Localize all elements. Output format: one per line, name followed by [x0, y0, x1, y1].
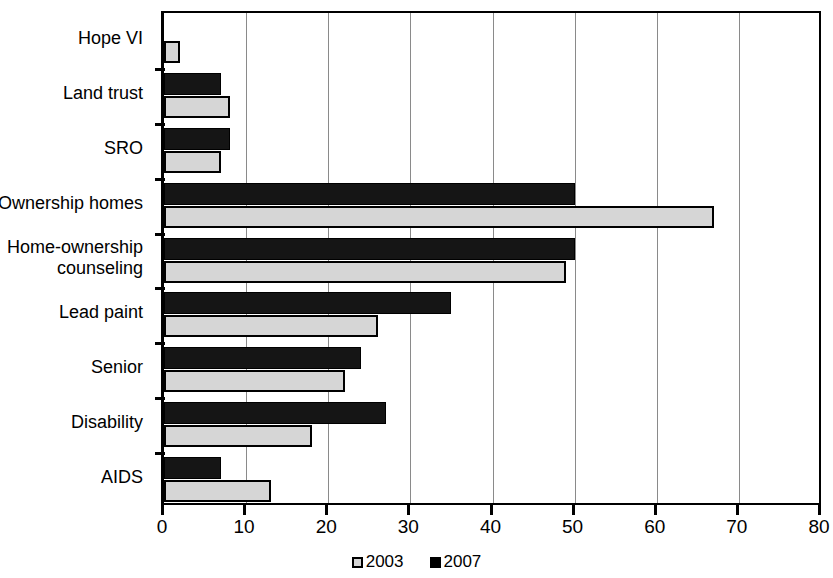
category-label-disability: Disability: [0, 412, 143, 433]
bar-2007-land-trust: [164, 73, 221, 95]
category-axis-labels: Hope VILand trustSROOwnership homesHome-…: [0, 11, 152, 505]
bar-2003-senior: [164, 370, 345, 392]
x-tick: [407, 505, 410, 515]
legend-label: 2007: [444, 552, 482, 572]
chart-legend: 20032007: [0, 551, 833, 572]
x-tick-label: 0: [140, 516, 184, 538]
category-tick: [155, 123, 165, 126]
bar-2003-lead-paint: [164, 315, 378, 337]
legend-label: 2003: [366, 552, 404, 572]
bar-2007-senior: [164, 347, 361, 369]
bar-2007-sro: [164, 128, 230, 150]
bar-chart: Hope VILand trustSROOwnership homesHome-…: [0, 0, 833, 578]
x-tick-label: 80: [797, 516, 833, 538]
gridline: [657, 13, 658, 503]
category-label-home-ownership-counseling: Home-ownership counseling: [0, 237, 143, 279]
category-label-ownership-homes: Ownership homes: [0, 193, 143, 214]
bar-2003-ownership-homes: [164, 206, 714, 228]
category-label-land-trust: Land trust: [0, 83, 143, 104]
category-label-aids: AIDS: [0, 467, 143, 488]
category-tick: [155, 287, 165, 290]
x-tick-label: 10: [222, 516, 266, 538]
x-tick-label: 60: [633, 516, 677, 538]
category-label-hope-vi: Hope VI: [0, 28, 143, 49]
category-tick: [155, 397, 165, 400]
legend-entry-2003: 2003: [352, 552, 404, 572]
category-tick: [155, 68, 165, 71]
category-label-lead-paint: Lead paint: [0, 302, 143, 323]
legend-entry-2007: 2007: [430, 552, 482, 572]
x-tick: [243, 505, 246, 515]
category-label-sro: SRO: [0, 138, 143, 159]
gridline: [575, 13, 576, 503]
bar-2007-disability: [164, 402, 386, 424]
bar-2003-land-trust: [164, 96, 230, 118]
category-tick: [155, 178, 165, 181]
bar-2003-aids: [164, 480, 271, 502]
light-gray-square-icon: [352, 557, 363, 568]
x-tick: [736, 505, 739, 515]
x-tick: [818, 505, 821, 515]
bar-2007-aids: [164, 457, 221, 479]
x-tick: [572, 505, 575, 515]
x-tick: [654, 505, 657, 515]
bar-2003-hope-vi: [164, 41, 180, 63]
x-tick: [325, 505, 328, 515]
black-square-icon: [430, 557, 441, 568]
x-tick-label: 50: [551, 516, 595, 538]
x-tick: [161, 505, 164, 515]
x-tick-label: 70: [715, 516, 759, 538]
x-tick: [490, 505, 493, 515]
category-tick: [155, 233, 165, 236]
bar-2007-lead-paint: [164, 292, 451, 314]
plot-area: [161, 11, 821, 505]
category-tick: [155, 342, 165, 345]
bar-2007-home-ownership-counseling: [164, 238, 575, 260]
x-tick-label: 30: [386, 516, 430, 538]
x-tick-label: 20: [304, 516, 348, 538]
category-label-senior: Senior: [0, 357, 143, 378]
bar-2003-disability: [164, 425, 312, 447]
x-tick-label: 40: [469, 516, 513, 538]
bar-2003-home-ownership-counseling: [164, 261, 566, 283]
bar-2003-sro: [164, 151, 221, 173]
gridline: [739, 13, 740, 503]
bar-2007-ownership-homes: [164, 183, 575, 205]
category-tick: [155, 452, 165, 455]
